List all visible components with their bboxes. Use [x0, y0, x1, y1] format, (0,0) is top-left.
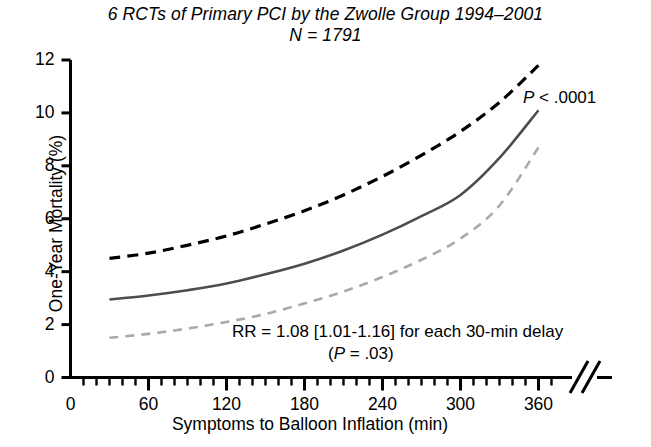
chart-figure: 6 RCTs of Primary PCI by the Zwolle Grou… [0, 0, 651, 447]
x-axis-tick-label: 240 [353, 394, 413, 415]
y-axis-tick-label: 12 [21, 49, 55, 70]
annotation-p-symbol-2: P [334, 344, 345, 363]
annotation-p-symbol: P [523, 88, 534, 107]
annotation-relative-risk-p: (P = .03) [328, 344, 394, 364]
x-axis-tick-label: 180 [275, 394, 335, 415]
x-axis-tick-label: 0 [41, 394, 101, 415]
x-axis-tick-label: 120 [197, 394, 257, 415]
chart-series-group [110, 65, 539, 338]
annotation-relative-risk: RR = 1.08 [1.01-1.16] for each 30-min de… [232, 322, 563, 342]
chart-series-line-2 [110, 147, 539, 338]
chart-plot-area [0, 0, 651, 447]
x-axis-tick-label: 360 [509, 394, 569, 415]
annotation-p-value-text-2: = .03) [345, 344, 394, 363]
y-axis-tick-label: 0 [21, 367, 55, 388]
x-axis-tick-label: 60 [119, 394, 179, 415]
x-axis-tick-label: 300 [431, 394, 491, 415]
annotation-p-value-text: < .0001 [534, 88, 596, 107]
axis-break-icon [570, 361, 600, 393]
y-axis-tick-label: 6 [21, 208, 55, 229]
annotation-p-value: P < .0001 [523, 88, 596, 108]
y-axis-tick-label: 8 [21, 155, 55, 176]
y-axis-tick-label: 2 [21, 314, 55, 335]
y-axis-tick-label: 4 [21, 261, 55, 282]
y-axis-tick-label: 10 [21, 102, 55, 123]
x-axis-title: Symptoms to Balloon Inflation (min) [0, 414, 620, 435]
